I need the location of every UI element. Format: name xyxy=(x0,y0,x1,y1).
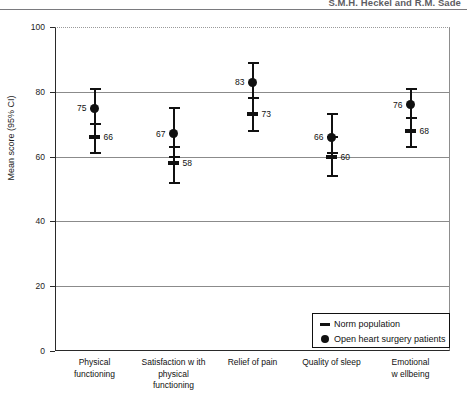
y-tick-label: 100 xyxy=(15,22,45,32)
x-axis-category-label: Relief of pain xyxy=(213,357,292,369)
marker-dash xyxy=(89,135,100,139)
data-value-label: 67 xyxy=(156,129,165,139)
data-value-label: 66 xyxy=(104,132,113,142)
x-axis-category-line: Emotional xyxy=(371,357,450,369)
gridline xyxy=(56,286,449,287)
y-tick-mark xyxy=(50,286,55,287)
chart-page: S.M.H. Heckel and R.M. Sade Mean score (… xyxy=(0,0,467,414)
y-tick-label: 60 xyxy=(15,152,45,162)
x-axis-category-line: Satisfaction w ith xyxy=(134,357,213,369)
error-bar-cap xyxy=(406,117,417,119)
x-axis-category-line: Physical xyxy=(55,357,134,369)
data-value-label: 75 xyxy=(77,103,86,113)
error-bar-cap xyxy=(327,175,338,177)
gridline xyxy=(56,157,449,158)
data-value-label: 76 xyxy=(393,100,402,110)
marker-dot xyxy=(248,78,257,87)
y-tick-label: 80 xyxy=(15,87,45,97)
error-bar-cap xyxy=(327,113,338,115)
error-bar-cap xyxy=(248,97,259,99)
error-bar-cap xyxy=(248,130,259,132)
data-value-label: 73 xyxy=(262,109,271,119)
data-value-label: 58 xyxy=(183,158,192,168)
legend-item-norm-population: Norm population xyxy=(319,317,400,331)
y-tick-label: 0 xyxy=(15,346,45,356)
data-value-label: 66 xyxy=(314,132,323,142)
x-axis-category-line: functioning xyxy=(134,380,213,392)
legend-label-norm-population: Norm population xyxy=(334,319,400,329)
error-bar-cap xyxy=(169,182,180,184)
data-value-label: 83 xyxy=(235,77,244,87)
legend-label-open-heart-surgery-patients: Open heart surgery patients xyxy=(334,334,446,344)
running-header: S.M.H. Heckel and R.M. Sade xyxy=(0,0,467,12)
error-bar-cap xyxy=(327,136,338,138)
error-bar-cap xyxy=(90,152,101,154)
error-bar-cap xyxy=(90,123,101,125)
x-axis-category-line: physical xyxy=(134,369,213,381)
x-axis-category-line: Quality of sleep xyxy=(292,357,371,369)
y-tick-mark xyxy=(50,27,55,28)
legend-dot-icon xyxy=(319,335,330,343)
error-bar-cap xyxy=(169,146,180,148)
running-header-text: S.M.H. Heckel and R.M. Sade xyxy=(328,0,461,8)
marker-dot xyxy=(90,104,99,113)
header-divider xyxy=(0,9,467,10)
error-bar-cap xyxy=(90,88,101,90)
x-axis-category-line: w ellbeing xyxy=(371,369,450,381)
error-bar-cap xyxy=(248,62,259,64)
marker-dash xyxy=(405,129,416,133)
x-axis-category-label: Quality of sleep xyxy=(292,357,371,369)
marker-dash xyxy=(247,112,258,116)
data-value-label: 60 xyxy=(341,152,350,162)
x-axis-category-label: Physicalfunctioning xyxy=(55,357,134,380)
y-tick-label: 20 xyxy=(15,281,45,291)
x-axis-category-label: Satisfaction w ithphysicalfunctioning xyxy=(134,357,213,392)
legend-item-open-heart-surgery-patients: Open heart surgery patients xyxy=(319,332,446,346)
x-axis-category-line: Relief of pain xyxy=(213,357,292,369)
error-bar-cap xyxy=(406,88,417,90)
legend-dash-icon xyxy=(319,323,330,326)
y-tick-mark xyxy=(50,351,55,352)
error-bar-cap xyxy=(406,146,417,148)
error-bar-cap xyxy=(169,107,180,109)
y-tick-mark xyxy=(50,92,55,93)
chart-legend: Norm population Open heart surgery patie… xyxy=(312,313,450,348)
y-tick-label: 40 xyxy=(15,216,45,226)
data-value-label: 68 xyxy=(420,126,429,136)
x-axis-category-line: functioning xyxy=(55,369,134,381)
y-tick-mark xyxy=(50,221,55,222)
gridline xyxy=(56,221,449,222)
marker-dash xyxy=(168,161,179,165)
marker-dash xyxy=(326,155,337,159)
x-axis-category-label: Emotionalw ellbeing xyxy=(371,357,450,380)
y-tick-mark xyxy=(50,157,55,158)
